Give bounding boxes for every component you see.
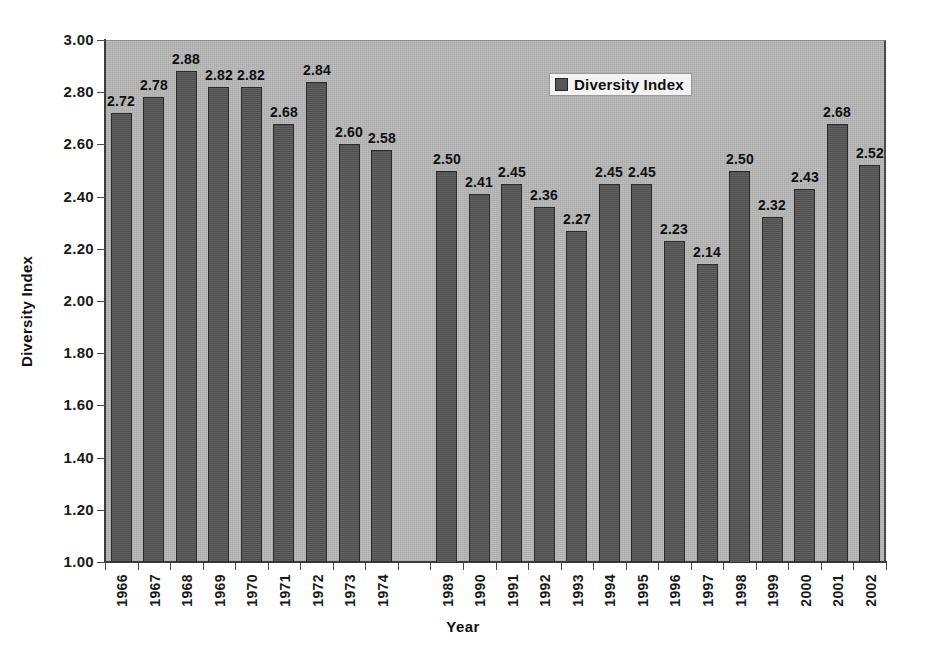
bar[interactable] <box>631 184 652 562</box>
x-axis-tick-label: 1997 <box>700 574 716 607</box>
y-axis-tick <box>97 249 105 250</box>
x-axis-tick <box>821 563 822 570</box>
x-axis-tick <box>788 563 789 570</box>
x-axis-tick-label: 1991 <box>505 574 521 607</box>
bar-value-label: 2.82 <box>231 67 271 83</box>
bar[interactable] <box>794 189 815 562</box>
x-axis-tick-label: 1969 <box>212 574 228 607</box>
y-axis-title: Diversity Index <box>18 231 52 391</box>
x-axis-tick-label: 2002 <box>863 574 879 607</box>
bar-value-label: 2.52 <box>850 145 890 161</box>
x-axis-tick <box>593 563 594 570</box>
x-axis-tick <box>430 563 431 570</box>
y-axis-tick-label: 2.80 <box>36 83 94 100</box>
y-axis-tick-label: 2.60 <box>36 135 94 152</box>
bar[interactable] <box>143 97 164 562</box>
bar[interactable] <box>827 124 848 562</box>
bar[interactable] <box>566 231 587 562</box>
bar[interactable] <box>599 184 620 562</box>
x-axis-tick <box>138 563 139 570</box>
bar[interactable] <box>501 184 522 562</box>
x-axis-tick-label: 1994 <box>602 574 618 607</box>
x-axis-tick <box>235 563 236 570</box>
x-axis-tick <box>886 563 887 570</box>
y-axis-tick-label: 1.00 <box>36 553 94 570</box>
bar[interactable] <box>859 165 880 562</box>
bar[interactable] <box>339 144 360 562</box>
bar[interactable] <box>762 217 783 562</box>
x-axis-tick <box>528 563 529 570</box>
bar-value-label: 2.36 <box>524 187 564 203</box>
x-axis-tick <box>203 563 204 570</box>
x-axis-tick <box>756 563 757 570</box>
bar-value-label: 2.78 <box>134 77 174 93</box>
x-axis-tick-label: 2000 <box>798 574 814 607</box>
y-axis-tick-label-wrap: 1.00 <box>28 553 94 571</box>
x-axis-tick <box>723 563 724 570</box>
x-axis-tick <box>658 563 659 570</box>
x-axis-tick-label: 1972 <box>310 574 326 607</box>
x-axis-tick-label: 1995 <box>635 574 651 607</box>
y-axis-tick-label: 1.60 <box>36 396 94 413</box>
bar-value-label: 2.14 <box>687 244 727 260</box>
legend-swatch-diversity-index <box>555 78 568 91</box>
bar-value-label: 2.27 <box>557 211 597 227</box>
x-axis-tick <box>691 563 692 570</box>
y-axis-tick <box>97 197 105 198</box>
x-axis-tick-label: 1967 <box>147 574 163 607</box>
y-axis-tick <box>97 405 105 406</box>
x-axis-tick <box>853 563 854 570</box>
y-axis-tick-label-wrap: 2.60 <box>28 135 94 153</box>
bar[interactable] <box>176 71 197 562</box>
bar[interactable] <box>371 150 392 562</box>
bar[interactable] <box>534 207 555 562</box>
x-axis-tick-label: 1974 <box>375 574 391 607</box>
y-axis-tick-label: 3.00 <box>36 31 94 48</box>
bar[interactable] <box>241 87 262 562</box>
bar[interactable] <box>273 124 294 562</box>
x-axis-tick-label: 1993 <box>570 574 586 607</box>
y-axis-tick <box>97 458 105 459</box>
y-axis-tick-label-wrap: 1.40 <box>28 449 94 467</box>
x-axis-tick <box>170 563 171 570</box>
y-axis-tick-label: 2.40 <box>36 188 94 205</box>
legend-label-diversity-index: Diversity Index <box>574 76 684 93</box>
x-axis-tick-label: 1966 <box>114 574 130 607</box>
y-axis-tick <box>97 562 105 563</box>
bar-value-label: 2.58 <box>362 130 402 146</box>
bar-value-label: 2.84 <box>297 62 337 78</box>
legend[interactable]: Diversity Index <box>549 73 692 96</box>
y-axis-tick <box>97 144 105 145</box>
bar[interactable] <box>697 264 718 562</box>
x-axis-tick <box>561 563 562 570</box>
bar[interactable] <box>208 87 229 562</box>
bar[interactable] <box>306 82 327 562</box>
bar-value-label: 2.43 <box>785 169 825 185</box>
y-axis-tick <box>97 40 105 41</box>
bar-value-label: 2.68 <box>264 104 304 120</box>
x-axis-tick-label: 1989 <box>440 574 456 607</box>
y-axis-tick-label-wrap: 1.20 <box>28 501 94 519</box>
x-axis-tick <box>105 563 106 570</box>
y-axis-tick <box>97 510 105 511</box>
bar-value-label: 2.50 <box>427 151 467 167</box>
y-axis-tick-label-wrap: 2.40 <box>28 188 94 206</box>
y-axis-tick <box>97 353 105 354</box>
bar[interactable] <box>664 241 685 562</box>
x-axis-tick-label: 1990 <box>472 574 488 607</box>
y-axis-tick-label: 1.20 <box>36 501 94 518</box>
bar[interactable] <box>469 194 490 562</box>
x-axis-tick-label: 1971 <box>277 574 293 607</box>
y-axis-tick-label-wrap: 2.80 <box>28 83 94 101</box>
bar[interactable] <box>111 113 132 562</box>
bar[interactable] <box>436 171 457 563</box>
x-axis-tick <box>626 563 627 570</box>
bar-value-label: 2.23 <box>654 221 694 237</box>
y-axis-tick <box>97 301 105 302</box>
bar-value-label: 2.45 <box>622 164 662 180</box>
y-axis-tick-label-wrap: 1.60 <box>28 396 94 414</box>
bar[interactable] <box>729 171 750 563</box>
x-axis-tick-label: 1992 <box>537 574 553 607</box>
bar-value-label: 2.68 <box>817 104 857 120</box>
bar-value-label: 2.32 <box>752 197 792 213</box>
